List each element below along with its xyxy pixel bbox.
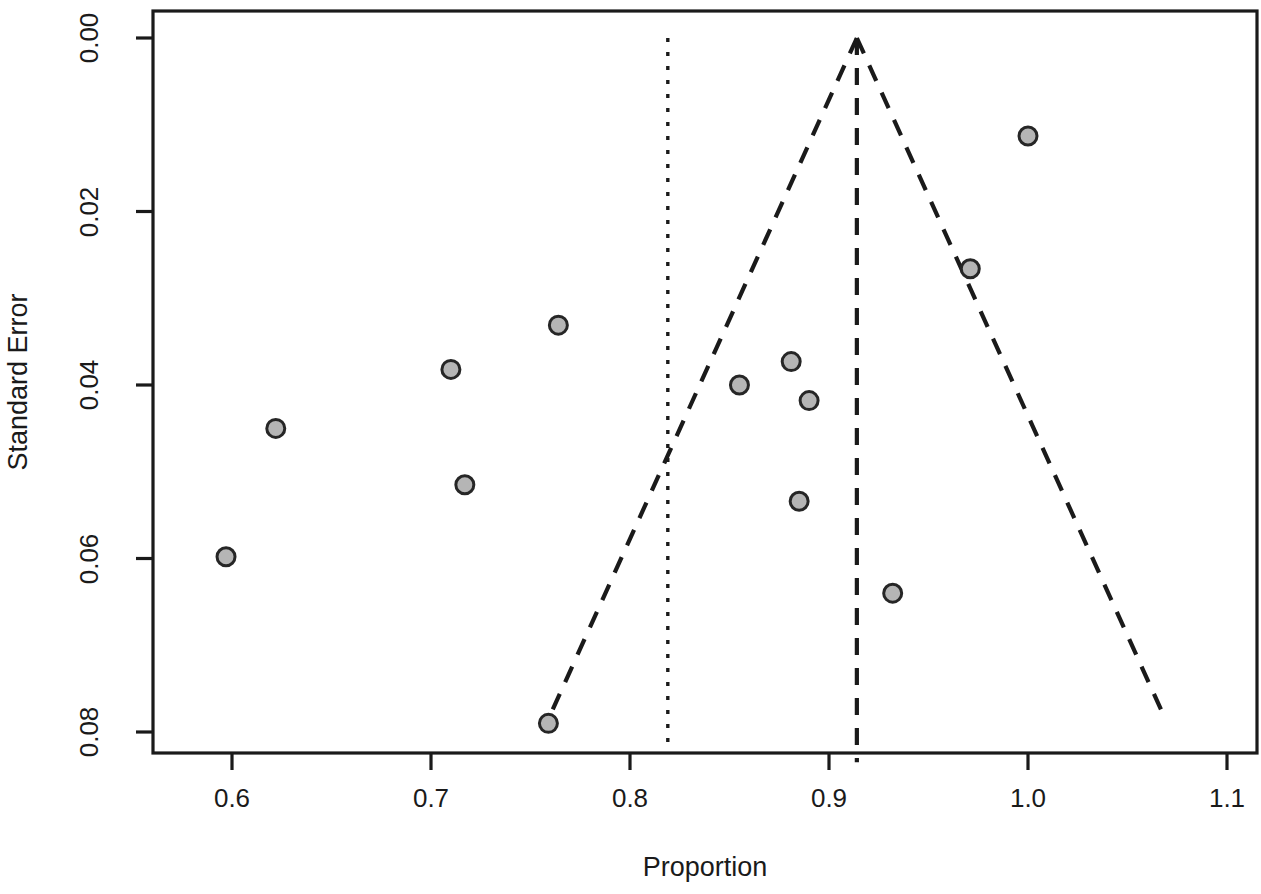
x-tick-label: 0.9 bbox=[811, 783, 847, 814]
y-tick-label: 0.08 bbox=[74, 707, 105, 758]
y-tick-label: 0.00 bbox=[74, 13, 105, 64]
data-point bbox=[961, 260, 979, 278]
y-tick-label: 0.04 bbox=[74, 360, 105, 411]
data-point bbox=[730, 376, 748, 394]
x-tick-label: 1.1 bbox=[1209, 783, 1245, 814]
data-point bbox=[782, 353, 800, 371]
x-tick-label: 0.7 bbox=[413, 783, 449, 814]
y-tick-label: 0.02 bbox=[74, 186, 105, 237]
data-point bbox=[790, 492, 808, 510]
plot-canvas bbox=[0, 0, 1261, 894]
x-tick-label: 0.8 bbox=[612, 783, 648, 814]
funnel-plot-figure: Standard Error Proportion 0.60.70.80.91.… bbox=[0, 0, 1261, 894]
plot-frame bbox=[153, 11, 1257, 753]
data-point bbox=[442, 360, 460, 378]
x-axis-title: Proportion bbox=[643, 852, 768, 883]
y-axis-title: Standard Error bbox=[3, 293, 34, 470]
data-point bbox=[217, 548, 235, 566]
data-point bbox=[800, 392, 818, 410]
y-tick-label: 0.06 bbox=[74, 533, 105, 584]
data-point bbox=[1019, 127, 1037, 145]
funnel-right-limit bbox=[857, 38, 1165, 719]
funnel-left-limit bbox=[548, 38, 856, 719]
data-point bbox=[539, 714, 557, 732]
data-point bbox=[267, 419, 285, 437]
data-point bbox=[456, 476, 474, 494]
data-point bbox=[884, 584, 902, 602]
x-tick-label: 0.6 bbox=[214, 783, 250, 814]
data-point bbox=[549, 316, 567, 334]
x-tick-label: 1.0 bbox=[1010, 783, 1046, 814]
